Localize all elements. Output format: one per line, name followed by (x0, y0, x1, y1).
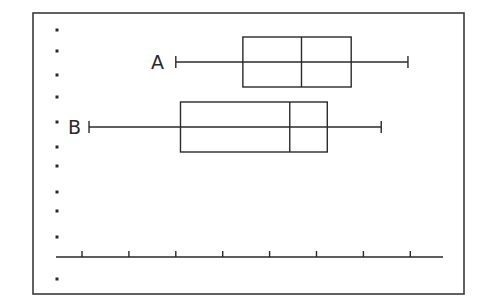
box-plot-a: A (151, 37, 408, 87)
series-label: B (68, 116, 81, 138)
dot-marker (56, 236, 59, 239)
dot-marker (56, 74, 59, 77)
series-label: A (151, 51, 164, 73)
dot-marker (56, 165, 59, 168)
box-plots: AB (68, 37, 408, 152)
x-axis (56, 251, 443, 257)
dot-marker (56, 210, 59, 213)
chart-frame (33, 13, 464, 294)
dot-marker (56, 50, 59, 53)
dot-marker (56, 96, 59, 99)
dot-marker (56, 146, 59, 149)
dot-marker (56, 278, 59, 281)
dot-marker (56, 191, 59, 194)
dot-marker (56, 121, 59, 124)
dot-marker (56, 29, 59, 32)
box-plot-b: B (68, 102, 381, 152)
box-plot-chart: AB (0, 0, 489, 306)
left-margin-dots (56, 29, 59, 281)
